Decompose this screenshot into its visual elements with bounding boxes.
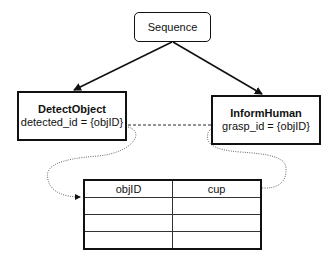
table-cell: [84, 232, 173, 250]
table-cell: cup: [173, 180, 262, 198]
inform-human-port: grasp_id = {objID}: [222, 120, 310, 133]
inform-human-title: InformHuman: [230, 107, 302, 120]
table-cell: [84, 198, 173, 215]
table-cell: [173, 232, 262, 250]
blackboard-table: objID cup: [83, 179, 262, 250]
sequence-node[interactable]: Sequence: [134, 12, 211, 42]
edge-sequence-detect: [74, 42, 172, 90]
table-cell: objID: [84, 180, 173, 198]
table-row: [84, 232, 261, 250]
table-cell: [173, 215, 262, 232]
table-row: [84, 215, 261, 232]
table-row: objID cup: [84, 180, 261, 198]
detect-object-port: detected_id = {objID}: [21, 116, 123, 129]
table-row: [84, 198, 261, 215]
inform-human-node[interactable]: InformHuman grasp_id = {objID}: [211, 95, 321, 145]
detect-object-node[interactable]: DetectObject detected_id = {objID}: [17, 91, 127, 141]
detect-object-title: DetectObject: [38, 103, 106, 116]
edge-sequence-inform: [173, 42, 262, 94]
table-cell: [173, 198, 262, 215]
table-cell: [84, 215, 173, 232]
sequence-label: Sequence: [148, 21, 198, 33]
